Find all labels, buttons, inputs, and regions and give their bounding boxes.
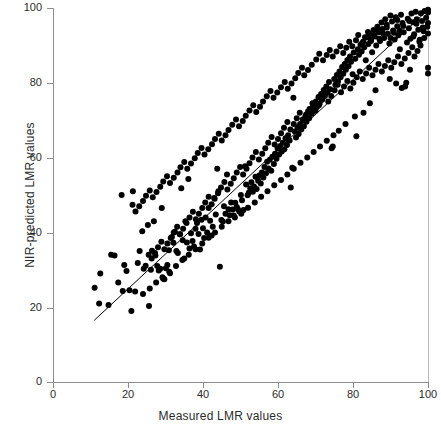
x-tick-label-80: 80 <box>333 388 373 400</box>
y-tick-mark-60 <box>47 158 53 159</box>
y-tick-mark-40 <box>47 233 53 234</box>
x-axis-line <box>53 382 429 383</box>
y-tick-label-0: 0 <box>8 375 42 387</box>
scatter-data-layer <box>0 0 441 433</box>
y-tick-mark-20 <box>47 308 53 309</box>
x-tick-label-40: 40 <box>183 388 223 400</box>
scatter-plot-figure: 100 80 60 40 20 0 0 20 40 60 80 100 Meas… <box>0 0 441 433</box>
x-tick-label-60: 60 <box>258 388 298 400</box>
x-axis-title: Measured LMR values <box>0 409 441 423</box>
y-tick-mark-100 <box>47 8 53 9</box>
y-axis-line <box>53 8 54 383</box>
data-points-group <box>92 7 431 314</box>
x-tick-label-100: 100 <box>408 388 441 400</box>
x-tick-label-0: 0 <box>33 388 73 400</box>
regression-line <box>94 10 428 320</box>
y-tick-label-100: 100 <box>8 1 42 13</box>
y-tick-mark-80 <box>47 83 53 84</box>
y-axis-title: NIR-predicted LMR values <box>23 70 37 320</box>
right-axis-edge <box>428 8 429 383</box>
x-tick-label-20: 20 <box>108 388 148 400</box>
